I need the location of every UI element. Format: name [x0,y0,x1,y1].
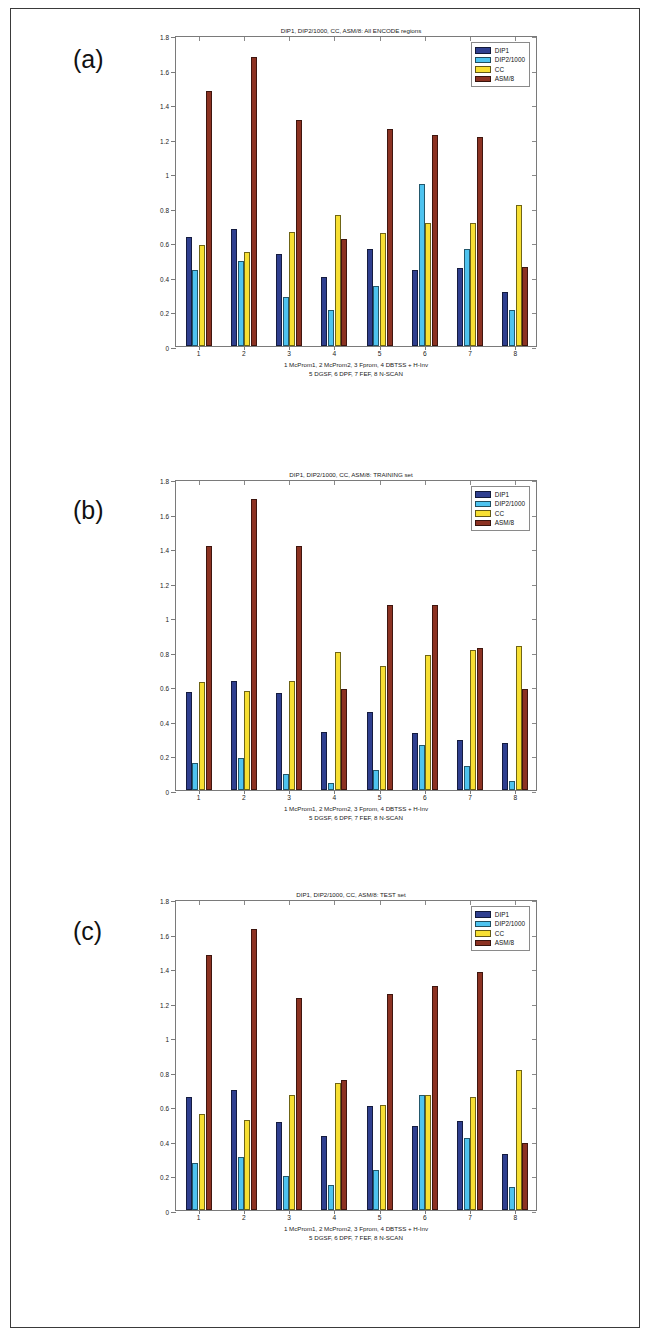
bar-cc-g8 [516,646,522,790]
y-axis-label: 0.6 [160,685,169,692]
y-axis-tick [171,106,176,107]
bar-dip21000-g1 [192,1163,198,1211]
x-axis-label: 8 [514,350,518,357]
bar-cc-g5 [380,233,386,346]
x-axis-label: 7 [468,1214,472,1221]
bar-cc-g3 [289,1095,295,1210]
y-axis-label: 0.6 [160,1105,169,1112]
y-axis-tick [171,1143,176,1144]
y-axis-tick-right [532,279,536,280]
y-axis-label: 1 [165,172,169,179]
legend-swatch-icon [475,47,491,54]
chart-legend: DIP1DIP2/1000CCASM/8 [471,906,530,951]
legend-label: DIP2/1000 [495,56,525,63]
bar-cc-g8 [516,1070,522,1210]
y-axis-tick-right [532,970,536,971]
bar-dip21000-g8 [509,1187,515,1210]
y-axis-tick-right [532,619,536,620]
legend-item: ASM/8 [475,74,525,84]
bar-asm8-g5 [387,994,393,1210]
y-axis-tick [171,1074,176,1075]
chart-figure: DIP1, DIP2/1000, CC, ASM/8: TEST set00.2… [141,891,561,1251]
bar-cc-g2 [244,1120,250,1210]
legend-label: ASM/8 [495,75,514,82]
bar-dip1-g1 [186,237,192,346]
x-axis-tick-top [515,37,516,41]
y-axis-label: 0.2 [160,1174,169,1181]
bar-dip1-g1 [186,692,192,790]
y-axis-label: 0.8 [160,650,169,657]
legend-item: DIP1 [475,490,525,500]
legend-label: DIP2/1000 [495,500,525,507]
y-axis-tick-right [532,550,536,551]
legend-label: DIP1 [495,47,509,54]
bar-cc-g6 [425,655,431,790]
x-axis-tick-top [515,481,516,485]
x-axis-tick-top [199,901,200,905]
bar-dip21000-g8 [509,781,515,791]
bar-cc-g5 [380,666,386,790]
bar-dip21000-g6 [419,184,425,346]
bar-dip1-g5 [367,1106,373,1210]
y-axis-tick-right [532,585,536,586]
legend-item: DIP2/1000 [475,919,525,929]
x-axis-label: 2 [242,1214,246,1221]
chart-title: DIP1, DIP2/1000, CC, ASM/8: TRAINING set [141,471,561,479]
y-axis-tick [171,550,176,551]
y-axis-tick [171,688,176,689]
bar-cc-g6 [425,223,431,346]
y-axis-tick-right [532,757,536,758]
legend-label: ASM/8 [495,519,514,526]
scanned-page: (a)DIP1, DIP2/1000, CC, ASM/8: All ENCOD… [10,8,640,1328]
bar-asm8-g2 [251,929,257,1210]
y-axis-tick-right [532,1039,536,1040]
y-axis-tick [171,585,176,586]
bar-dip21000-g6 [419,745,425,790]
y-axis-tick [171,348,176,349]
y-axis-tick-right [532,1005,536,1006]
bar-dip21000-g2 [238,758,244,790]
bar-cc-g4 [335,1083,341,1210]
y-axis-label: 0.2 [160,754,169,761]
bar-dip21000-g4 [328,783,334,790]
legend-swatch-icon [475,510,491,517]
bar-asm8-g3 [296,120,302,346]
x-axis-tick-top [425,37,426,41]
bar-dip21000-g7 [464,766,470,790]
y-axis-tick-right [532,936,536,937]
bar-dip21000-g8 [509,310,515,346]
bar-asm8-g4 [341,1080,347,1210]
y-axis-label: 0.8 [160,1070,169,1077]
x-axis-label: 1 [197,1214,201,1221]
x-axis-label: 5 [378,1214,382,1221]
y-axis-label: 0.4 [160,1139,169,1146]
y-axis-label: 1 [165,616,169,623]
y-axis-tick-right [532,481,536,482]
bar-dip21000-g6 [419,1095,425,1210]
y-axis-label: 0.8 [160,206,169,213]
bar-dip1-g6 [412,1126,418,1210]
legend-label: ASM/8 [495,939,514,946]
x-axis-label: 5 [378,794,382,801]
x-axis-label: 8 [514,794,518,801]
bar-asm8-g6 [432,135,438,346]
y-axis-tick [171,175,176,176]
plot-area: 00.20.40.60.811.21.41.61.812345678DIP1DI… [175,900,537,1211]
x-axis-tick-top [470,481,471,485]
y-axis-tick-right [532,1143,536,1144]
x-axis-tick-top [334,901,335,905]
y-axis-label: 1.8 [160,478,169,485]
legend-label: CC [495,510,504,517]
bar-asm8-g1 [206,91,212,346]
bar-dip1-g1 [186,1097,192,1210]
y-axis-tick [171,1212,176,1213]
y-axis-tick [171,1177,176,1178]
bar-cc-g3 [289,681,295,790]
bar-dip21000-g5 [373,1170,379,1210]
bar-dip1-g6 [412,733,418,790]
bar-cc-g1 [199,245,205,346]
legend-item: ASM/8 [475,938,525,948]
y-axis-tick-right [532,654,536,655]
x-axis-label: 2 [242,350,246,357]
bar-asm8-g6 [432,986,438,1210]
